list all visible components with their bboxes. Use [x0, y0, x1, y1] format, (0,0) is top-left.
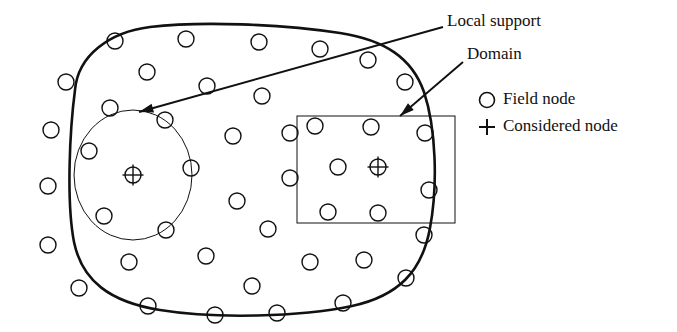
field-node-boundary [269, 305, 285, 321]
local-support-leader-line [139, 27, 443, 112]
legend-item-2: Considered node [479, 116, 618, 135]
circle-icon [480, 93, 495, 108]
field-node-interior [229, 193, 245, 209]
annotation-label-layer: Local supportDomain [447, 11, 541, 63]
field-node-interior [96, 208, 112, 224]
legend-label-2: Considered node [503, 116, 618, 135]
field-node-interior [139, 64, 155, 80]
field-node-boundary [40, 237, 56, 253]
field-node-boundary [251, 34, 267, 50]
field-node-interior [244, 278, 260, 294]
legend-label-1: Field node [503, 89, 575, 108]
field-node-boundary [312, 41, 328, 57]
field-node-interior [363, 119, 379, 135]
field-node-interior [254, 88, 270, 104]
field-node-interior [102, 100, 118, 116]
local-support-label: Local support [447, 11, 541, 30]
legend-item-1: Field node [480, 89, 576, 108]
field-node-interior [158, 222, 174, 238]
meshless-domain-diagram: Local supportDomain Field nodeConsidered… [0, 0, 677, 332]
field-node-interior [307, 118, 323, 134]
field-node-interior [282, 125, 298, 141]
field-node-boundary [71, 280, 87, 296]
field-node-interior [121, 254, 137, 270]
field-node-boundary [360, 52, 376, 68]
local-support-leader-head [139, 104, 154, 113]
field-node-boundary [397, 74, 413, 90]
field-node-boundary [417, 125, 433, 141]
field-node-interior [302, 254, 318, 270]
legend: Field nodeConsidered node [479, 89, 618, 135]
considered-node [123, 165, 144, 186]
field-node-interior [370, 205, 386, 221]
field-node-interior [81, 143, 97, 159]
field-node-boundary [40, 178, 56, 194]
field-node-interior [320, 204, 336, 220]
field-node-interior [282, 170, 298, 186]
field-node-interior [330, 159, 346, 175]
considered-node-layer [123, 157, 389, 186]
field-node-interior [356, 252, 372, 268]
field-node-interior [260, 221, 276, 237]
field-node-boundary [43, 122, 59, 138]
field-node-boundary [178, 31, 194, 47]
field-node-interior [198, 248, 214, 264]
field-node-interior [225, 128, 241, 144]
domain-label: Domain [467, 44, 522, 63]
considered-node [368, 157, 389, 178]
local-support-leader [139, 27, 443, 112]
field-node-boundary [58, 74, 74, 90]
